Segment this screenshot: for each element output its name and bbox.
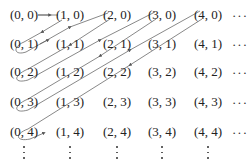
column-ellipsis-3 xyxy=(161,146,163,163)
cell-0-0: (0, 0) xyxy=(10,7,38,23)
enumeration-path xyxy=(0,0,252,165)
column-ellipsis-0 xyxy=(23,146,25,163)
cell-4-4: (4, 4) xyxy=(194,124,222,140)
cell-2-4: (2, 4) xyxy=(103,124,131,140)
cell-4-0: (4, 0) xyxy=(194,7,222,23)
cell-2-3: (2, 3) xyxy=(103,94,131,110)
row-ellipsis-1: ··· xyxy=(232,37,248,53)
cell-4-1: (4, 1) xyxy=(194,36,222,52)
row-ellipsis-0: ··· xyxy=(232,8,248,24)
cell-0-1: (0, 1) xyxy=(10,36,38,52)
pairing-diagram: (0, 0) (1, 0) (2, 0) (3, 0) (4, 0) ··· (… xyxy=(0,0,252,165)
cell-1-3: (1, 3) xyxy=(56,94,84,110)
cell-1-0: (1, 0) xyxy=(56,7,84,23)
cell-0-3: (0, 3) xyxy=(10,94,38,110)
row-ellipsis-4: ··· xyxy=(232,125,248,141)
cell-1-1: (1, 1) xyxy=(56,36,84,52)
row-ellipsis-3: ··· xyxy=(232,95,248,111)
cell-4-3: (4, 3) xyxy=(194,94,222,110)
cell-3-4: (3, 4) xyxy=(148,124,176,140)
cell-1-2: (1, 2) xyxy=(56,64,84,80)
cell-4-2: (4, 2) xyxy=(194,64,222,80)
cell-2-2: (2, 2) xyxy=(103,64,131,80)
column-ellipsis-1 xyxy=(69,146,71,163)
column-ellipsis-4 xyxy=(207,146,209,163)
cell-2-0: (2, 0) xyxy=(103,7,131,23)
cell-0-2: (0, 2) xyxy=(10,64,38,80)
cell-1-4: (1, 4) xyxy=(56,124,84,140)
cell-3-3: (3, 3) xyxy=(148,94,176,110)
row-ellipsis-2: ··· xyxy=(232,65,248,81)
cell-3-2: (3, 2) xyxy=(148,64,176,80)
cell-3-1: (3, 1) xyxy=(148,36,176,52)
cell-2-1: (2, 1) xyxy=(103,36,131,52)
cell-0-4: (0, 4) xyxy=(10,124,38,140)
cell-3-0: (3, 0) xyxy=(148,7,176,23)
column-ellipsis-2 xyxy=(116,146,118,163)
